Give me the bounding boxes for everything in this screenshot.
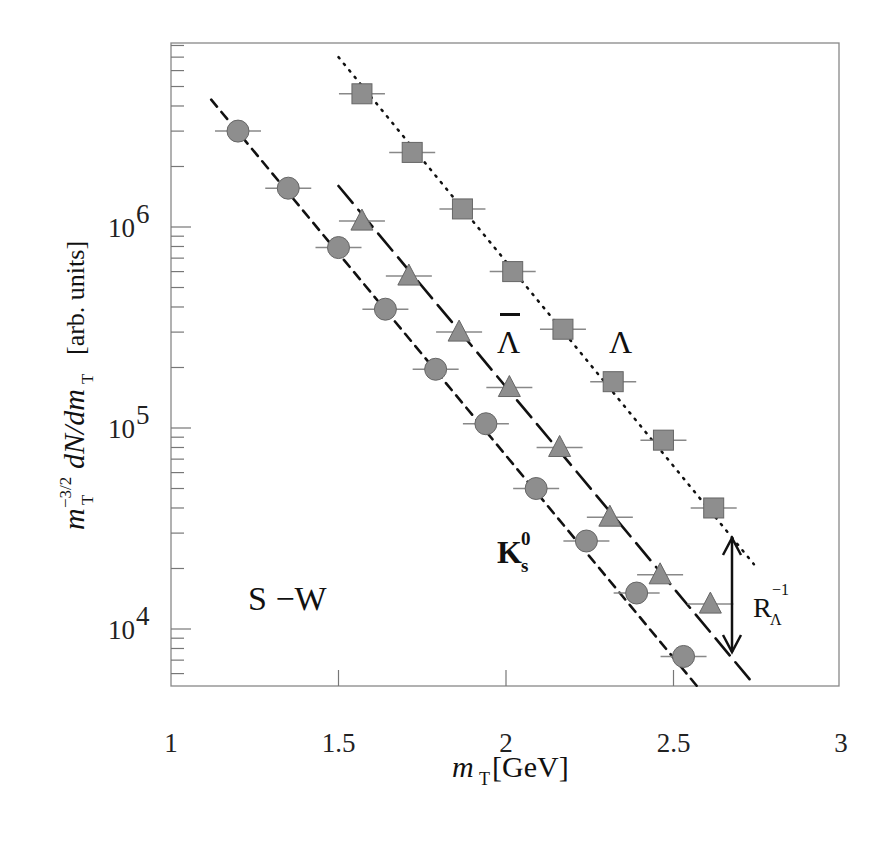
svg-text:K: K — [497, 534, 522, 570]
chart: 11.522.53104105106 S −W K 0 s Λ Λ R −1 Λ… — [0, 0, 891, 841]
y-axis-label: m T −3/2 dN/dm T [arb. units] — [56, 241, 97, 530]
circle-marker-icon — [475, 413, 497, 435]
ratio-arrow-icon — [723, 538, 741, 652]
circle-marker-icon — [227, 120, 249, 142]
data-point-anti-lambda — [637, 563, 683, 584]
square-marker-icon — [503, 262, 523, 282]
svg-text:dN/dm: dN/dm — [57, 389, 90, 469]
square-marker-icon — [553, 319, 573, 339]
fit-line-anti-lambda — [339, 186, 754, 684]
circle-marker-icon — [525, 478, 547, 500]
system-label: S −W — [248, 580, 328, 617]
kaon-label: K 0 s — [497, 528, 531, 576]
data-point-k0s — [661, 645, 707, 667]
circle-marker-icon — [626, 582, 648, 604]
data-point-lambda — [339, 84, 385, 104]
square-marker-icon — [402, 142, 422, 162]
data-point-k0s — [265, 177, 311, 199]
data-point-k0s — [413, 358, 459, 380]
circle-marker-icon — [277, 177, 299, 199]
data-point-lambda — [540, 319, 586, 339]
square-marker-icon — [452, 199, 472, 219]
data-point-k0s — [316, 237, 362, 259]
svg-text:s: s — [521, 555, 528, 576]
svg-text:0: 0 — [521, 528, 531, 549]
data-point-anti-lambda — [587, 505, 633, 526]
svg-text:T: T — [479, 769, 490, 789]
data-point-lambda — [389, 142, 435, 162]
x-tick-label: 3 — [834, 728, 848, 758]
data-point-anti-lambda — [386, 264, 432, 285]
data-point-k0s — [215, 120, 261, 142]
y-tick-exponent: 5 — [136, 400, 150, 430]
circle-marker-icon — [374, 298, 396, 320]
y-tick-exponent: 6 — [136, 199, 150, 229]
x-tick-label: 1 — [164, 728, 178, 758]
ratio-label: R −1 Λ — [753, 581, 789, 628]
svg-text:T: T — [78, 494, 97, 505]
data-point-anti-lambda — [436, 320, 482, 341]
data-point-lambda — [439, 199, 485, 219]
svg-text:Λ: Λ — [497, 324, 520, 360]
lambda-label: Λ — [609, 324, 632, 360]
triangle-marker-icon — [398, 264, 420, 285]
data-point-lambda — [691, 498, 737, 518]
data-point-k0s — [463, 413, 509, 435]
data-point-anti-lambda — [687, 592, 733, 613]
y-tick-label: 10 — [108, 213, 135, 243]
triangle-marker-icon — [448, 320, 470, 341]
triangle-marker-icon — [351, 209, 373, 230]
svg-text:[arb. units]: [arb. units] — [61, 241, 90, 355]
x-axis-label: m T [GeV] — [452, 750, 569, 789]
triangle-marker-icon — [498, 376, 520, 397]
x-tick-label: 2.5 — [657, 728, 691, 758]
antilambda-label: Λ — [497, 313, 520, 360]
triangle-marker-icon — [649, 563, 671, 584]
circle-marker-icon — [673, 645, 695, 667]
data-point-anti-lambda — [486, 376, 532, 397]
square-marker-icon — [603, 372, 623, 392]
circle-marker-icon — [575, 530, 597, 552]
data-point-k0s — [362, 298, 408, 320]
svg-text:Λ: Λ — [770, 611, 782, 628]
svg-text:−1: −1 — [772, 581, 789, 598]
square-marker-icon — [653, 430, 673, 450]
svg-text:T: T — [78, 373, 97, 384]
data-point-anti-lambda — [537, 435, 583, 456]
circle-marker-icon — [425, 358, 447, 380]
triangle-marker-icon — [699, 592, 721, 613]
x-tick-label: 1.5 — [322, 728, 356, 758]
axis-ticks: 11.522.53104105106 — [108, 45, 848, 758]
square-marker-icon — [704, 498, 724, 518]
data-point-k0s — [513, 478, 559, 500]
triangle-marker-icon — [549, 435, 571, 456]
data-point-lambda — [490, 262, 536, 282]
svg-text:m: m — [57, 508, 90, 530]
data-point-anti-lambda — [339, 209, 385, 230]
data-point-k0s — [614, 582, 660, 604]
y-tick-label: 10 — [108, 615, 135, 645]
circle-marker-icon — [328, 237, 350, 259]
svg-text:−3/2: −3/2 — [56, 477, 75, 508]
triangle-marker-icon — [599, 505, 621, 526]
svg-text:[GeV]: [GeV] — [492, 750, 569, 783]
y-tick-label: 10 — [108, 414, 135, 444]
square-marker-icon — [352, 84, 372, 104]
y-tick-exponent: 4 — [136, 601, 150, 631]
svg-text:m: m — [452, 750, 474, 783]
